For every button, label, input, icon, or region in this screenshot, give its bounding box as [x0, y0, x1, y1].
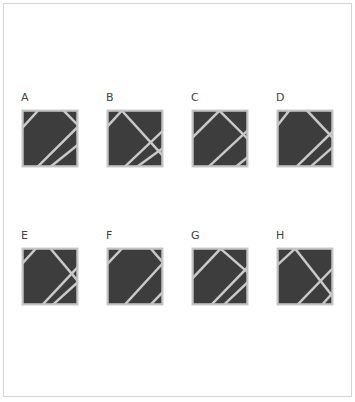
pattern-tile [21, 247, 79, 306]
pattern-tile [276, 247, 334, 306]
pattern-tile [191, 247, 249, 306]
option-h[interactable]: H [276, 230, 336, 310]
pattern-tile [191, 109, 249, 168]
option-label: G [191, 230, 200, 242]
option-a[interactable]: A [21, 92, 81, 172]
option-f[interactable]: F [106, 230, 166, 310]
pattern-tile [106, 247, 164, 306]
option-label: H [276, 230, 284, 242]
option-label: A [21, 92, 29, 104]
option-label: B [106, 92, 114, 104]
pattern-tile [276, 109, 334, 168]
option-b[interactable]: B [106, 92, 166, 172]
option-d[interactable]: D [276, 92, 336, 172]
option-c[interactable]: C [191, 92, 251, 172]
pattern-tile [21, 109, 79, 168]
option-label: E [21, 230, 28, 242]
option-g[interactable]: G [191, 230, 251, 310]
option-e[interactable]: E [21, 230, 81, 310]
puzzle-frame [3, 3, 352, 397]
option-label: F [106, 230, 112, 242]
option-label: C [191, 92, 199, 104]
pattern-tile [106, 109, 164, 168]
option-label: D [276, 92, 284, 104]
